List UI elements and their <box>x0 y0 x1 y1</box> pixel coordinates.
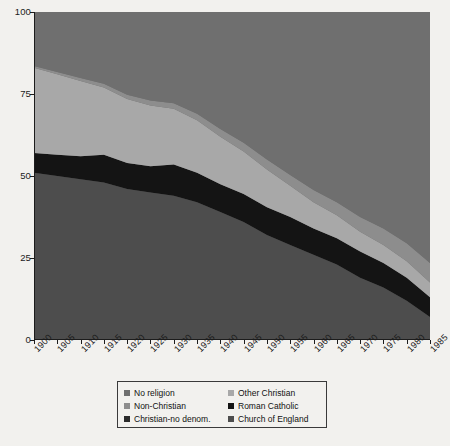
x-tick-mark-1910 <box>81 340 82 344</box>
x-tick-mark-1980 <box>407 340 408 344</box>
plot-area <box>34 12 430 340</box>
x-tick-mark-1925 <box>150 340 151 344</box>
y-tick-mark-50 <box>30 176 34 177</box>
x-tick-mark-1900 <box>34 340 35 344</box>
legend-item-christian-no-denom[interactable]: Christian-no denom. <box>124 412 228 425</box>
legend-label-other-christian: Other Christian <box>238 388 295 398</box>
legend-label-no-religion: No religion <box>134 388 175 398</box>
legend-swatch-roman-catholic <box>228 403 234 409</box>
x-tick-label-1985: 1985 <box>428 332 450 354</box>
legend-swatch-church-of-england <box>228 416 234 422</box>
legend-item-roman-catholic[interactable]: Roman Catholic <box>228 399 332 412</box>
legend-label-roman-catholic: Roman Catholic <box>238 401 298 411</box>
legend-item-church-of-england[interactable]: Church of England <box>228 412 332 425</box>
x-tick-mark-1950 <box>267 340 268 344</box>
legend-label-church-of-england: Church of England <box>238 414 308 424</box>
x-tick-mark-1965 <box>337 340 338 344</box>
stacked-area-svg <box>34 12 430 340</box>
legend-swatch-christian-no-denom <box>124 416 130 422</box>
legend-swatch-non-christian <box>124 403 130 409</box>
y-tick-label-75: 75 <box>1 89 31 98</box>
x-tick-mark-1915 <box>104 340 105 344</box>
x-tick-mark-1975 <box>383 340 384 344</box>
y-tick-label-50: 50 <box>1 171 31 180</box>
legend-grid: No religion Other Christian Non-Christia… <box>118 386 326 425</box>
y-tick-label-25: 25 <box>1 253 31 262</box>
y-tick-mark-75 <box>30 94 34 95</box>
x-tick-mark-1905 <box>57 340 58 344</box>
x-tick-mark-1960 <box>314 340 315 344</box>
y-tick-mark-25 <box>30 258 34 259</box>
y-axis: 1007550250 <box>0 0 31 446</box>
y-tick-mark-100 <box>30 12 34 13</box>
legend-item-no-religion[interactable]: No religion <box>124 386 228 399</box>
x-tick-mark-1985 <box>430 340 431 344</box>
legend-label-non-christian: Non-Christian <box>134 401 186 411</box>
y-tick-mark-0 <box>30 340 34 341</box>
x-tick-mark-1970 <box>360 340 361 344</box>
x-tick-mark-1935 <box>197 340 198 344</box>
chart-legend: No religion Other Christian Non-Christia… <box>117 381 327 428</box>
x-tick-mark-1920 <box>127 340 128 344</box>
y-tick-label-0: 0 <box>1 335 31 344</box>
x-tick-mark-1930 <box>174 340 175 344</box>
x-tick-mark-1955 <box>290 340 291 344</box>
legend-label-christian-no-denom: Christian-no denom. <box>134 414 211 424</box>
legend-item-other-christian[interactable]: Other Christian <box>228 386 332 399</box>
legend-swatch-no-religion <box>124 390 130 396</box>
y-tick-label-100: 100 <box>1 7 31 16</box>
x-tick-mark-1940 <box>220 340 221 344</box>
legend-swatch-other-christian <box>228 390 234 396</box>
legend-item-non-christian[interactable]: Non-Christian <box>124 399 228 412</box>
x-tick-mark-1945 <box>244 340 245 344</box>
